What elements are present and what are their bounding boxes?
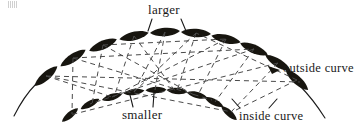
dash-line-11 (90, 49, 254, 104)
outer-arc-tail-right (300, 86, 325, 118)
outer-arc-tail-left (14, 84, 36, 116)
dash-tie-6 (198, 39, 226, 95)
dash-tie-1 (72, 58, 73, 114)
leader-smaller-right (153, 93, 154, 107)
dashed-construction-lines (46, 32, 300, 115)
dash-line-7 (134, 36, 176, 92)
dash-cross-2 (196, 33, 297, 80)
leader-inside-right (269, 99, 277, 108)
dash-line-2 (46, 76, 300, 82)
label-smaller: smaller (122, 108, 162, 121)
outer-arc-markers (32, 27, 311, 93)
leader-smaller-left (130, 95, 133, 107)
dash-line-10 (112, 39, 226, 97)
label-inside-curve: inside curve (239, 110, 303, 123)
dash-tie-2 (92, 45, 103, 104)
leader-larger-right (181, 19, 186, 31)
leader-larger-left (148, 19, 152, 31)
dash-tie-3 (114, 36, 134, 97)
dash-line-13 (232, 80, 297, 112)
label-larger: larger (148, 3, 180, 16)
label-outside-curve: outside curve (283, 62, 354, 75)
dash-tie-4 (134, 32, 165, 92)
